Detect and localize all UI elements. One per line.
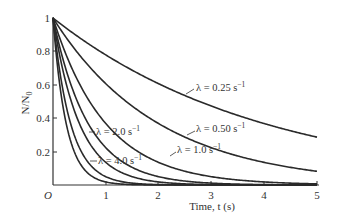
curve-lambda-3 xyxy=(53,18,317,185)
y-tick-0.2: 0.2 xyxy=(36,146,50,158)
y-axis-title-main: N/N xyxy=(19,95,31,114)
axes xyxy=(53,17,319,185)
y-tick-labels: 0.2 0.4 0.6 0.8 1 xyxy=(36,12,50,158)
label-lambda-0.25: λ = 0.25 s−1 xyxy=(196,80,246,93)
label-lambda-4.0: λ = 4.0 s−1 xyxy=(98,153,142,166)
curve-lambda-1.5 xyxy=(53,18,317,185)
curve-lambda-1 xyxy=(53,18,317,184)
y-tick-0.8: 0.8 xyxy=(36,45,50,57)
curve-lambda-2 xyxy=(53,18,317,185)
y-axis-title-sub: 0 xyxy=(25,92,34,96)
label-lambda-0.50: λ = 0.50 s−1 xyxy=(196,121,246,134)
x-tick-4: 4 xyxy=(261,189,267,201)
origin-label: O xyxy=(44,189,52,201)
decay-chart: 1 2 3 4 5 0.2 0.4 0.6 0.8 1 O Time, t (s… xyxy=(0,0,343,222)
curve-lambda-0.25 xyxy=(53,18,317,137)
y-tick-0.6: 0.6 xyxy=(36,79,50,91)
x-tick-2: 2 xyxy=(155,189,161,201)
label-lambda-1.0: λ = 1.0 s−1 xyxy=(177,142,221,155)
y-axis-title: N/N0 xyxy=(19,92,34,115)
x-tick-5: 5 xyxy=(314,189,320,201)
decay-curves xyxy=(53,18,317,185)
label-lambda-2.0: λ = 2.0 s−1 xyxy=(96,124,140,137)
y-tick-0.4: 0.4 xyxy=(36,112,50,124)
svg-text:N/N0: N/N0 xyxy=(19,92,34,115)
x-axis-title: Time, t (s) xyxy=(189,200,235,213)
curve-lambda-4 xyxy=(53,18,317,185)
y-tick-1: 1 xyxy=(45,12,51,24)
x-tick-1: 1 xyxy=(103,189,109,201)
